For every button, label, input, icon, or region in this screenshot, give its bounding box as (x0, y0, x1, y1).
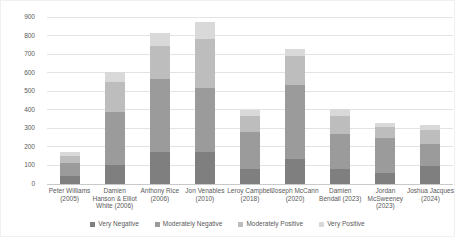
x-tick-label: Joseph McCann(2020) (273, 187, 318, 210)
stacked-bar-jordan-mcsweeney-(2023) (375, 123, 395, 184)
segment-moderately-negative (330, 134, 350, 169)
legend-marker-icon (155, 222, 160, 227)
segment-moderately-positive (240, 116, 260, 132)
x-tick-label-line: (2024) (421, 195, 440, 203)
segment-moderately-negative (195, 88, 215, 152)
segment-very-negative (60, 176, 80, 184)
bar-column (182, 17, 227, 184)
segment-very-positive (195, 22, 215, 40)
x-axis-labels: Peter Williams(2005)DamienHanson & Ellio… (47, 187, 453, 210)
segment-moderately-positive (195, 39, 215, 87)
y-axis: 0100200300400500600700800900 (1, 17, 41, 184)
segment-very-positive (105, 72, 125, 82)
x-tick-label-line: Leroy Campbell (227, 187, 273, 195)
segment-very-negative (195, 152, 215, 184)
bar-column (273, 17, 318, 184)
segment-moderately-negative (285, 85, 305, 159)
x-tick-label-line: Joshua Jacques (407, 187, 454, 195)
bar-column (408, 17, 453, 184)
x-tick-label-line: Anthony Rice (140, 187, 179, 195)
segment-very-positive (330, 109, 350, 116)
plot-area (47, 17, 453, 184)
segment-moderately-negative (105, 112, 125, 166)
y-tick-label: 900 (24, 13, 35, 21)
x-tick-label: JordanMcSweeney(2023) (363, 187, 408, 210)
segment-moderately-negative (60, 163, 80, 176)
x-tick-label: Joshua Jacques(2024) (408, 187, 453, 210)
y-tick-label: 400 (24, 106, 35, 114)
x-tick-label-line: (2006) (150, 195, 169, 203)
segment-moderately-positive (375, 127, 395, 137)
x-tick-label-line: (2020) (286, 195, 305, 203)
y-tick-label: 500 (24, 87, 35, 95)
segment-moderately-negative (420, 144, 440, 166)
stacked-bar-jon-venables-(2010) (195, 22, 215, 184)
segment-very-negative (105, 165, 125, 184)
x-tick-label: Anthony Rice(2006) (137, 187, 182, 210)
y-tick-label: 0 (31, 180, 35, 188)
segment-moderately-positive (105, 82, 125, 112)
y-tick-label: 200 (24, 143, 35, 151)
legend-item-moderately-negative: Moderately Negative (155, 220, 223, 228)
bar-column (47, 17, 92, 184)
segment-moderately-positive (330, 116, 350, 134)
legend-item-very-negative: Very Negative (90, 220, 138, 228)
x-tick-label-line: Damien (329, 187, 351, 195)
x-tick-label: Peter Williams(2005) (47, 187, 92, 210)
stacked-bar-peter-williams-(2005) (60, 152, 80, 184)
segment-very-negative (150, 152, 170, 184)
y-tick-label: 600 (24, 69, 35, 77)
x-tick-label-line: White (2006) (96, 202, 133, 210)
x-tick-label-line: McSweeney (368, 195, 403, 203)
stacked-bar-chart: 0100200300400500600700800900 Peter Willi… (0, 0, 455, 237)
x-tick-label-line: Jon Venables (185, 187, 224, 195)
x-tick-label-line: Joseph McCann (272, 187, 319, 195)
segment-moderately-positive (150, 46, 170, 79)
segment-moderately-negative (375, 138, 395, 173)
segment-very-negative (240, 169, 260, 184)
x-tick-label: DamienHanson & ElliotWhite (2006) (92, 187, 137, 210)
stacked-bar-joshua-jacques-(2024) (420, 125, 440, 184)
bar-column (363, 17, 408, 184)
x-tick-label-line: Damien (103, 187, 125, 195)
legend-label: Very Positive (327, 220, 365, 228)
segment-very-negative (285, 159, 305, 184)
bar-column (318, 17, 363, 184)
x-tick-label-line: (2005) (60, 195, 79, 203)
segment-very-negative (420, 166, 440, 184)
legend-item-moderately-positive: Moderately Positive (238, 220, 303, 228)
bar-column (137, 17, 182, 184)
legend-marker-icon (238, 222, 243, 227)
y-tick-label: 300 (24, 124, 35, 132)
x-tick-label-line: Bendall (2023) (319, 195, 361, 203)
segment-very-positive (285, 49, 305, 56)
legend-marker-icon (319, 222, 324, 227)
x-tick-label-line: Peter Williams (49, 187, 91, 195)
y-tick-label: 800 (24, 32, 35, 40)
x-tick-label: DamienBendall (2023) (318, 187, 363, 210)
x-tick-label-line: Hanson & Elliot (92, 195, 136, 203)
legend-marker-icon (90, 222, 95, 227)
legend-label: Very Negative (98, 220, 138, 228)
x-tick-label-line: Jordan (375, 187, 395, 195)
x-tick-label-line: (2010) (195, 195, 214, 203)
x-tick-label: Leroy Campbell(2018) (227, 187, 272, 210)
segment-very-negative (330, 169, 350, 184)
bars (47, 17, 453, 184)
bar-column (227, 17, 272, 184)
stacked-bar-joseph-mccann-(2020) (285, 49, 305, 184)
stacked-bar-damien-hanson-&-elliot-white-(2006) (105, 72, 125, 184)
bar-column (92, 17, 137, 184)
stacked-bar-leroy-campbell-(2018) (240, 110, 260, 184)
segment-very-negative (375, 173, 395, 184)
segment-moderately-negative (150, 79, 170, 152)
stacked-bar-damien-bendall-(2023) (330, 109, 350, 184)
legend-label: Moderately Negative (163, 220, 223, 228)
segment-moderately-positive (420, 130, 440, 144)
legend-item-very-positive: Very Positive (319, 220, 365, 228)
x-tick-label-line: (2023) (376, 202, 395, 210)
legend-label: Moderately Positive (246, 220, 303, 228)
segment-very-positive (150, 33, 170, 46)
segment-moderately-positive (285, 56, 305, 85)
x-tick-label: Jon Venables(2010) (182, 187, 227, 210)
